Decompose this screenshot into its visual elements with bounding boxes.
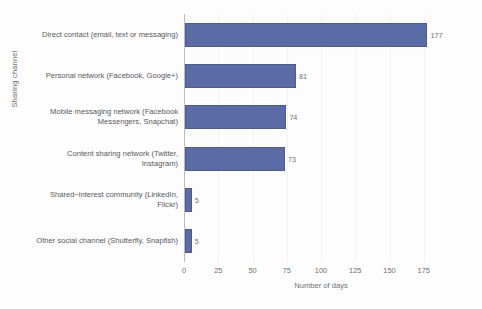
- gridline: [424, 14, 425, 262]
- x-tick-label: 25: [214, 266, 222, 275]
- category-label: Personal network (Facebook, Google+): [36, 71, 178, 81]
- bar-chart: Sharing channel Direct contact (email, t…: [0, 0, 482, 309]
- bar-fill: [185, 147, 285, 171]
- bar[interactable]: 73: [185, 147, 285, 171]
- gridline: [321, 14, 322, 262]
- x-axis-ticks: 0255075100125150175: [184, 266, 458, 278]
- y-axis-title: Sharing channel: [10, 34, 19, 124]
- bar[interactable]: 81: [185, 64, 296, 88]
- x-tick-label: 125: [349, 266, 361, 275]
- x-tick-label: 100: [315, 266, 327, 275]
- gridline: [253, 14, 254, 262]
- category-axis-labels: Direct contact (email, text or messaging…: [36, 18, 178, 262]
- bar-fill: [185, 188, 192, 212]
- category-label: Shared−interest community (LinkedIn, Fli…: [36, 190, 178, 210]
- bar-fill: [185, 105, 286, 129]
- category-label: Other social channel (Shutterfly, Snapfi…: [36, 236, 178, 246]
- x-tick-label: 150: [383, 266, 395, 275]
- bar[interactable]: 74: [185, 105, 286, 129]
- x-tick-label: 175: [418, 266, 430, 275]
- x-axis-title: Number of days: [184, 281, 458, 290]
- bar[interactable]: 177: [185, 23, 427, 47]
- bar-fill: [185, 229, 192, 253]
- bar-value-label: 5: [195, 196, 199, 205]
- bar-value-label: 74: [289, 113, 297, 122]
- gridline: [287, 14, 288, 262]
- gridline: [218, 14, 219, 262]
- bar[interactable]: 5: [185, 229, 192, 253]
- category-label: Content sharing network (Twitter, Instag…: [36, 149, 178, 169]
- bar[interactable]: 5: [185, 188, 192, 212]
- x-tick-label: 50: [248, 266, 256, 275]
- y-axis-line: [184, 14, 185, 262]
- x-tick-label: 0: [182, 266, 186, 275]
- plot-area: 17781747355: [184, 14, 458, 262]
- gridline: [355, 14, 356, 262]
- bar-fill: [185, 23, 427, 47]
- bar-value-label: 81: [299, 72, 307, 81]
- category-label: Mobile messaging network (Facebook Messe…: [36, 107, 178, 127]
- gridline: [390, 14, 391, 262]
- x-tick-label: 75: [283, 266, 291, 275]
- bar-fill: [185, 64, 296, 88]
- category-label: Direct contact (email, text or messaging…: [36, 30, 178, 40]
- bar-value-label: 5: [195, 237, 199, 246]
- bar-value-label: 177: [430, 30, 442, 39]
- bar-value-label: 73: [288, 154, 296, 163]
